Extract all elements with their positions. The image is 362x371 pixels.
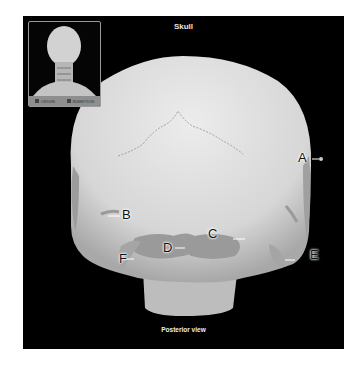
head-neck-thumbnail (29, 22, 100, 106)
inset-legend: ORIGIN INSERTION (29, 96, 100, 106)
figure-caption: Posterior view (23, 326, 344, 333)
origin-swatch (35, 99, 39, 103)
legend-origin: ORIGIN (35, 99, 55, 104)
legend-insertion: INSERTION (67, 99, 95, 104)
label-f: F (119, 251, 127, 266)
label-c: C (208, 226, 217, 241)
label-b: B (122, 207, 131, 222)
label-a: A (298, 150, 307, 165)
figure-panel: Skull A B (23, 16, 344, 349)
label-e: E (310, 247, 319, 262)
label-d: D (163, 240, 172, 255)
inset-thumbnail: ORIGIN INSERTION (28, 21, 101, 107)
legend-origin-label: ORIGIN (41, 99, 55, 104)
insertion-swatch (67, 99, 71, 103)
legend-insertion-label: INSERTION (73, 99, 95, 104)
